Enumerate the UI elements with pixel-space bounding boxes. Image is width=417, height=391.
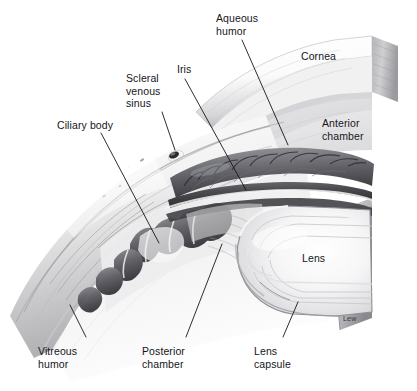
label-scleral-venous-sinus: Scleral venous sinus <box>126 72 160 110</box>
label-cornea: Cornea <box>301 50 336 63</box>
label-iris: Iris <box>177 63 191 76</box>
artist-signature: Lew <box>343 315 356 322</box>
label-aqueous-humor: Aqueous humor <box>216 12 258 37</box>
label-lens: Lens <box>302 252 325 265</box>
eye-anatomy-figure: Aqueous humor Scleral venous sinus Iris … <box>0 0 417 391</box>
label-ciliary-body: Ciliary body <box>57 119 113 132</box>
label-vitreous-humor: Vitreous humor <box>38 345 77 370</box>
label-anterior-chamber: Anterior chamber <box>322 117 364 142</box>
label-lens-capsule: Lens capsule <box>254 345 291 370</box>
eye-cross-section-illustration <box>0 0 417 391</box>
label-posterior-chamber: Posterior chamber <box>142 345 185 370</box>
